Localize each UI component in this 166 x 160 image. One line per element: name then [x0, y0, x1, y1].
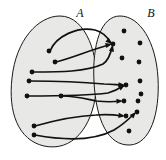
- element-dot-a7: [32, 124, 37, 129]
- element-dot-a1: [47, 49, 52, 54]
- set-label-b: B: [147, 6, 155, 20]
- element-dot-b6: [138, 79, 143, 84]
- element-dot-a2: [53, 60, 58, 65]
- element-dot-b2: [138, 41, 143, 46]
- set-region-b: [94, 16, 159, 145]
- element-dot-b8: [139, 92, 144, 97]
- element-dot-b3: [111, 42, 116, 47]
- set-label-a: A: [75, 6, 84, 20]
- element-dot-b7: [124, 83, 129, 88]
- element-dot-b12: [124, 114, 129, 119]
- element-dot-a8: [32, 133, 37, 138]
- element-dot-b1: [122, 29, 127, 34]
- element-dot-a5: [25, 94, 30, 99]
- element-dot-b5: [137, 60, 142, 65]
- element-dot-a6: [59, 94, 64, 99]
- element-dot-b11: [135, 110, 140, 115]
- element-dot-b9: [122, 99, 127, 104]
- element-dot-b13: [127, 129, 132, 134]
- element-dot-a4: [27, 79, 32, 84]
- set-mapping-canvas: A B: [0, 0, 166, 160]
- element-dot-b10: [136, 99, 141, 104]
- set-mapping-figure: A B: [0, 0, 166, 160]
- element-dot-b4: [120, 56, 125, 61]
- element-dot-a3: [30, 70, 35, 75]
